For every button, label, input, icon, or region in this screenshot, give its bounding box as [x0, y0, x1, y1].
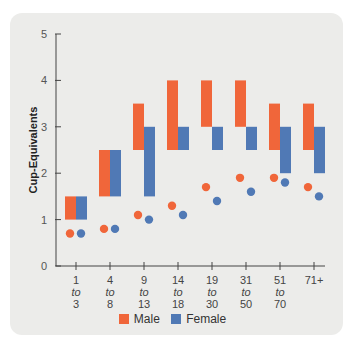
female-range-bar — [212, 127, 223, 150]
x-tick-label: to — [207, 286, 216, 298]
x-tick-label: 71+ — [305, 274, 324, 286]
female-range-bar — [246, 127, 257, 150]
y-tick-label: 4 — [41, 74, 47, 86]
chart-legend: Male Female — [0, 312, 345, 327]
x-tick-label: 14 — [172, 274, 184, 286]
female-range-bar — [314, 127, 325, 173]
legend-item-female: Female — [171, 312, 226, 326]
female-swatch — [171, 314, 181, 324]
male-range-bar — [133, 104, 144, 150]
male-swatch — [119, 314, 129, 324]
chart-plot: 012345Cup-Equivalents1to34to89to1314to18… — [0, 0, 345, 352]
male-range-bar — [269, 104, 280, 150]
female-intake-dot — [213, 197, 221, 205]
x-tick-label: 50 — [240, 298, 252, 310]
x-tick-label: 30 — [206, 298, 218, 310]
male-intake-dot — [134, 211, 142, 219]
female-intake-dot — [77, 229, 85, 237]
x-tick-label: 9 — [141, 274, 147, 286]
female-range-bar — [110, 150, 121, 196]
x-tick-label: 70 — [274, 298, 286, 310]
female-intake-dot — [247, 188, 255, 196]
y-tick-label: 2 — [41, 167, 47, 179]
male-intake-dot — [66, 229, 74, 237]
male-range-bar — [167, 80, 178, 150]
male-range-bar — [99, 150, 110, 196]
legend-label-male: Male — [134, 312, 160, 326]
y-tick-label: 3 — [41, 121, 47, 133]
female-intake-dot — [145, 215, 153, 223]
x-tick-label: 1 — [73, 274, 79, 286]
legend-label-female: Female — [186, 312, 226, 326]
x-tick-label: 3 — [73, 298, 79, 310]
female-intake-dot — [315, 192, 323, 200]
x-tick-label: 31 — [240, 274, 252, 286]
x-tick-label: to — [71, 286, 80, 298]
female-range-bar — [76, 196, 87, 219]
x-tick-label: to — [241, 286, 250, 298]
male-intake-dot — [202, 183, 210, 191]
female-intake-dot — [111, 225, 119, 233]
female-range-bar — [280, 127, 291, 173]
x-tick-label: 19 — [206, 274, 218, 286]
y-tick-label: 0 — [41, 260, 47, 272]
x-tick-label: 51 — [274, 274, 286, 286]
male-range-bar — [235, 80, 246, 126]
male-intake-dot — [168, 201, 176, 209]
x-tick-label: 18 — [172, 298, 184, 310]
female-intake-dot — [281, 178, 289, 186]
female-range-bar — [144, 127, 155, 197]
x-tick-label: 4 — [107, 274, 113, 286]
male-range-bar — [201, 80, 212, 126]
x-tick-label: to — [105, 286, 114, 298]
male-intake-dot — [100, 225, 108, 233]
male-range-bar — [303, 104, 314, 150]
x-tick-label: 13 — [138, 298, 150, 310]
x-tick-label: to — [173, 286, 182, 298]
legend-item-male: Male — [119, 312, 160, 326]
male-intake-dot — [236, 174, 244, 182]
y-axis-label: Cup-Equivalents — [27, 107, 39, 194]
male-intake-dot — [270, 174, 278, 182]
male-range-bar — [65, 196, 76, 219]
male-intake-dot — [304, 183, 312, 191]
y-tick-label: 5 — [41, 28, 47, 40]
x-tick-label: to — [275, 286, 284, 298]
female-intake-dot — [179, 211, 187, 219]
x-tick-label: 8 — [107, 298, 113, 310]
female-range-bar — [178, 127, 189, 150]
x-tick-label: to — [139, 286, 148, 298]
y-tick-label: 1 — [41, 214, 47, 226]
